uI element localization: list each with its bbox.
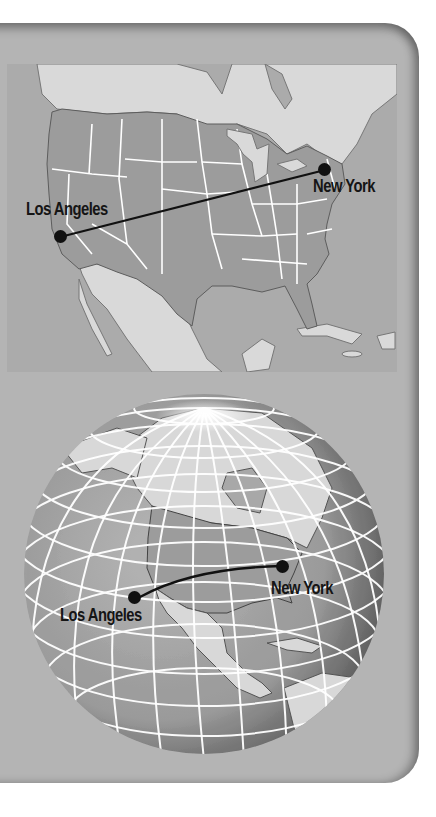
globe-new-york-marker — [276, 560, 289, 573]
flat-new-york-marker — [318, 163, 331, 176]
flat-los-angeles-marker — [54, 230, 67, 243]
flat-new-york-label: New York — [313, 176, 375, 197]
globe-map — [22, 388, 386, 760]
globe-graphic — [22, 388, 386, 760]
globe-new-york-label: New York — [271, 578, 333, 599]
flat-los-angeles-label: Los Angeles — [26, 199, 108, 220]
globe-los-angeles-label: Los Angeles — [60, 605, 142, 626]
globe-los-angeles-marker — [128, 591, 141, 604]
